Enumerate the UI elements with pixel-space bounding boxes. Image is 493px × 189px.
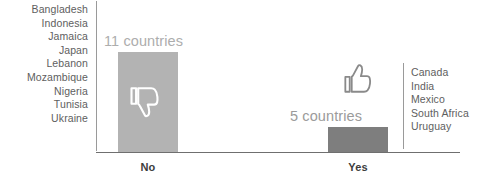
divider-left	[96, 1, 97, 151]
bar-yes[interactable]	[328, 127, 388, 152]
thumbs-down-icon	[125, 82, 167, 124]
list-item: Indonesia	[0, 17, 88, 31]
value-label-yes: 5 countries	[290, 108, 362, 124]
list-item: Mozambique	[0, 71, 88, 85]
list-item: India	[411, 80, 491, 94]
thumbs-up-icon	[340, 59, 380, 99]
list-item: Canada	[411, 66, 491, 80]
axis-baseline	[96, 152, 460, 153]
list-item: Jamaica	[0, 30, 88, 44]
list-item: Japan	[0, 44, 88, 58]
list-item: Nigeria	[0, 85, 88, 99]
divider-right	[403, 63, 404, 149]
bar-chart: Bangladesh Indonesia Jamaica Japan Leban…	[0, 0, 493, 189]
list-item: South Africa	[411, 107, 491, 121]
list-item: Lebanon	[0, 57, 88, 71]
country-list-yes: Canada India Mexico South Africa Uruguay	[411, 66, 491, 134]
country-list-no: Bangladesh Indonesia Jamaica Japan Leban…	[0, 3, 88, 125]
value-label-no: 11 countries	[104, 33, 183, 49]
list-item: Bangladesh	[0, 3, 88, 17]
list-item: Mexico	[411, 93, 491, 107]
category-label-yes: Yes	[328, 161, 388, 173]
list-item: Uruguay	[411, 120, 491, 134]
list-item: Ukraine	[0, 112, 88, 126]
list-item: Tunisia	[0, 98, 88, 112]
category-label-no: No	[118, 161, 178, 173]
